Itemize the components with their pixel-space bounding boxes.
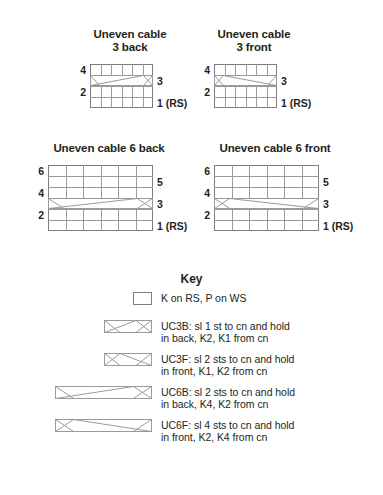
- row-number-right: 1 (RS): [157, 221, 187, 231]
- knitting-chart-page: Uneven cable 3 back 4231 (RS) Uneven cab…: [0, 0, 383, 495]
- key-label: K on RS, P on WS: [161, 292, 382, 304]
- grid-line-horizontal: [48, 209, 153, 210]
- row-number-left: 4: [66, 65, 86, 75]
- grid-line-horizontal: [214, 209, 319, 210]
- row-number-right: 3: [281, 76, 287, 86]
- grid-line-horizontal: [90, 86, 153, 87]
- chart-title: Uneven cable 6 back: [26, 142, 192, 155]
- key-entry: UC6B: sl 2 sts to cn and hold in back, K…: [0, 386, 383, 411]
- grid-line-horizontal: [214, 220, 319, 221]
- row-number-right: 5: [323, 177, 329, 187]
- chart-title: Uneven cable 3 front: [190, 28, 318, 54]
- grid-line-horizontal: [214, 97, 277, 98]
- key-symbol-uc6f: [55, 419, 152, 432]
- row-number-left: 2: [26, 210, 44, 220]
- row-number-right: 5: [157, 177, 163, 187]
- row-number-right: 1 (RS): [323, 221, 353, 231]
- row-number-right: 3: [157, 199, 163, 209]
- row-number-left: 4: [192, 188, 210, 198]
- key-entry: UC3B: sl 1 st to cn and hold in back, K2…: [0, 320, 383, 345]
- grid-line-horizontal: [214, 176, 319, 177]
- chart-grid: 4231 (RS): [190, 54, 318, 114]
- row-number-left: 6: [192, 166, 210, 176]
- grid-line-horizontal: [90, 97, 153, 98]
- row-number-left: 4: [190, 65, 210, 75]
- grid-line-horizontal: [214, 187, 319, 188]
- chart-uneven-cable-6-back: Uneven cable 6 back 642531 (RS): [26, 142, 192, 245]
- chart-uneven-cable-3-back: Uneven cable 3 back 4231 (RS): [66, 28, 194, 114]
- row-number-left: 2: [192, 210, 210, 220]
- cable-symbol-uc3f: [214, 75, 277, 86]
- key-heading: Key: [0, 272, 383, 286]
- key-symbol-uc6b: [55, 386, 152, 399]
- cable-symbol-uc6f: [214, 198, 319, 209]
- grid-line-horizontal: [48, 220, 153, 221]
- key-entry: UC6F: sl 4 sts to cn and hold in front, …: [0, 419, 383, 444]
- chart-grid: 642531 (RS): [192, 155, 358, 245]
- row-number-right: 1 (RS): [281, 98, 311, 108]
- row-number-right: 3: [157, 76, 163, 86]
- key-label: UC6F: sl 4 sts to cn and hold in front, …: [161, 419, 382, 444]
- key-symbol-knit: [133, 292, 152, 305]
- cable-symbol-uc3b: [90, 75, 153, 86]
- key-entry: K on RS, P on WS: [0, 292, 383, 305]
- row-number-right: 1 (RS): [157, 98, 187, 108]
- grid-line-horizontal: [214, 86, 277, 87]
- grid-line-horizontal: [48, 187, 153, 188]
- chart-title: Uneven cable 3 back: [66, 28, 194, 54]
- row-number-left: 2: [190, 87, 210, 97]
- key-symbol-uc3f: [104, 353, 152, 366]
- key-label: UC3B: sl 1 st to cn and hold in back, K2…: [161, 320, 382, 345]
- chart-grid: 4231 (RS): [66, 54, 194, 114]
- key-label: UC6B: sl 2 sts to cn and hold in back, K…: [161, 386, 382, 411]
- key-label: UC3F: sl 2 sts to cn and hold in front, …: [161, 353, 382, 378]
- row-number-left: 6: [26, 166, 44, 176]
- key-symbol-uc3b: [104, 320, 152, 333]
- chart-uneven-cable-3-front: Uneven cable 3 front 4231 (RS): [190, 28, 318, 114]
- row-number-left: 2: [66, 87, 86, 97]
- row-number-left: 4: [26, 188, 44, 198]
- row-number-right: 3: [323, 199, 329, 209]
- key-entry: UC3F: sl 2 sts to cn and hold in front, …: [0, 353, 383, 378]
- chart-title: Uneven cable 6 front: [192, 142, 358, 155]
- grid-line-horizontal: [48, 176, 153, 177]
- chart-grid: 642531 (RS): [26, 155, 192, 245]
- chart-uneven-cable-6-front: Uneven cable 6 front 642531 (RS): [192, 142, 358, 245]
- cable-symbol-uc6b: [48, 198, 153, 209]
